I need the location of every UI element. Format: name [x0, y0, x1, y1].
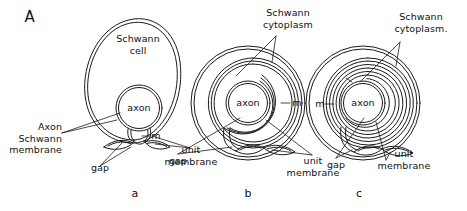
figure-container: A Schwann cell axon Axon Schwann membran…	[0, 0, 467, 211]
label-axon-c: axon	[343, 97, 383, 109]
label-axon-a: axon	[119, 102, 159, 114]
panel-letter-a: a	[126, 188, 144, 200]
label-axon-schwann-membrane-a: Axon Schwann membrane	[0, 121, 62, 156]
figure-panel-letter-A: A	[20, 12, 40, 24]
label-gap-b: gap	[160, 155, 196, 167]
leader-schwann-cytoplasm-b	[236, 36, 276, 76]
label-axon-b: axon	[228, 97, 268, 109]
panel-letter-c: c	[350, 188, 368, 200]
leader-axon-schwann-membrane-2-a	[62, 120, 117, 133]
label-gap-c: gap	[318, 159, 354, 171]
label-mesaxon-c: m	[314, 98, 326, 110]
label-mesaxon-b: m	[291, 97, 303, 109]
label-schwann-cell-a: Schwann cell	[100, 33, 176, 56]
label-schwann-cytoplasm-c: Schwann cytoplasm.	[383, 11, 459, 34]
label-schwann-cytoplasm-b: Schwann cytoplasm	[252, 7, 324, 30]
label-mesaxon-a: m	[150, 130, 162, 142]
label-gap-a: gap	[82, 162, 118, 174]
leader-schwann-cytoplasm-c	[360, 42, 400, 82]
mesaxon-right-leaflet-a	[131, 130, 135, 141]
label-unit-membrane-c: unit membrane	[373, 148, 435, 171]
panel-letter-b: b	[239, 188, 257, 200]
